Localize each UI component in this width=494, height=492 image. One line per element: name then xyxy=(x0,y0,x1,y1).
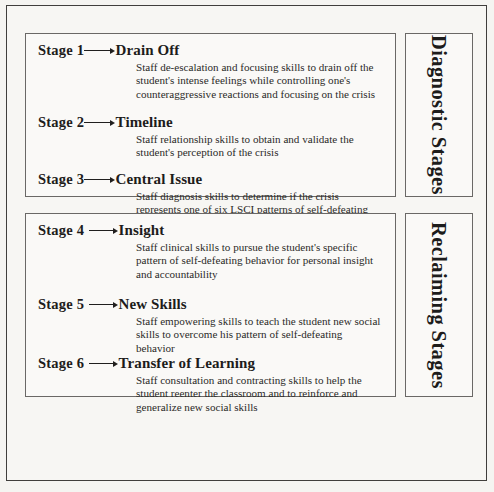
arrow-icon xyxy=(89,300,118,310)
stage-block-5: Stage 5 New Skills Staff empowering skil… xyxy=(26,296,395,355)
stage-block-2: Stage 2 Timeline Staff relationship skil… xyxy=(26,114,395,160)
group-label-box-diagnostic: Diagnostic Stages xyxy=(405,33,473,197)
stage-panel-reclaiming: Stage 4 Insight Staff clinical skills to… xyxy=(25,213,396,397)
stage-title-2: Timeline xyxy=(116,114,173,131)
stage-number-3: Stage 3 xyxy=(38,171,84,188)
stage-description-5: Staff empowering skills to teach the stu… xyxy=(136,315,382,355)
arrow-icon xyxy=(84,175,115,185)
stage-description-6: Staff consultation and contracting skill… xyxy=(136,374,382,414)
stage-description-1: Staff de-escalation and focusing skills … xyxy=(136,61,382,101)
stage-number-5: Stage 5 xyxy=(38,296,84,313)
group-label-diagnostic: Diagnostic Stages xyxy=(429,35,450,195)
group-diagnostic: Stage 1 Drain Off Staff de-escalation an… xyxy=(25,33,476,197)
stage-title-1: Drain Off xyxy=(116,42,180,59)
stage-panel-diagnostic: Stage 1 Drain Off Staff de-escalation an… xyxy=(25,33,396,197)
arrow-icon xyxy=(84,118,115,128)
group-label-reclaiming: Reclaiming Stages xyxy=(429,222,450,389)
stage-header-1: Stage 1 Drain Off xyxy=(26,42,395,59)
stage-title-5: New Skills xyxy=(119,296,187,313)
arrow-icon xyxy=(84,46,115,56)
stage-number-1: Stage 1 xyxy=(38,42,84,59)
stage-header-6: Stage 6 Transfer of Learning xyxy=(26,355,395,372)
stage-header-3: Stage 3 Central Issue xyxy=(26,171,395,188)
diagram-outer-frame: Stage 1 Drain Off Staff de-escalation an… xyxy=(6,5,487,481)
stage-header-4: Stage 4 Insight xyxy=(26,222,395,239)
stage-number-4: Stage 4 xyxy=(38,222,84,239)
stage-block-1: Stage 1 Drain Off Staff de-escalation an… xyxy=(26,42,395,101)
stage-number-2: Stage 2 xyxy=(38,114,84,131)
arrow-icon xyxy=(89,359,118,369)
stage-title-6: Transfer of Learning xyxy=(119,355,255,372)
stage-description-2: Staff relationship skills to obtain and … xyxy=(136,133,382,160)
arrow-icon xyxy=(89,226,118,236)
stage-description-4: Staff clinical skills to pursue the stud… xyxy=(136,241,382,281)
stage-title-3b: Central Issue xyxy=(116,171,203,188)
stage-block-4: Stage 4 Insight Staff clinical skills to… xyxy=(26,222,395,281)
stage-header-5: Stage 5 New Skills xyxy=(26,296,395,313)
stage-title-4: Insight xyxy=(119,222,165,239)
stage-block-6: Stage 6 Transfer of Learning Staff consu… xyxy=(26,355,395,414)
stage-header-2: Stage 2 Timeline xyxy=(26,114,395,131)
group-label-box-reclaiming: Reclaiming Stages xyxy=(405,213,473,397)
group-reclaiming: Stage 4 Insight Staff clinical skills to… xyxy=(25,213,476,397)
stage-number-6: Stage 6 xyxy=(38,355,84,372)
